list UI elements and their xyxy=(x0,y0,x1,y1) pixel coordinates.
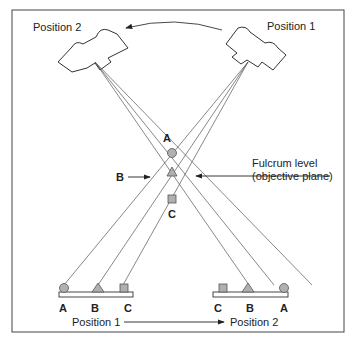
rays-position-1 xyxy=(64,62,248,285)
tube-label-position-2: Position 2 xyxy=(33,21,81,33)
bottom-caption-position-2: Position 2 xyxy=(230,316,278,328)
detector-right-label-c: C xyxy=(214,302,222,314)
rotation-arrow-icon xyxy=(126,22,222,30)
xray-tube-position-2 xyxy=(58,29,128,72)
fulcrum-label-line2: (objective plane) xyxy=(252,170,333,182)
tube-label-position-1: Position 1 xyxy=(267,20,315,32)
xray-tube-position-1 xyxy=(226,27,286,70)
point-a-circle xyxy=(168,149,177,158)
tomography-diagram: A C B Fulcrum level (objective plane) Po… xyxy=(0,0,360,342)
bottom-caption-position-1: Position 1 xyxy=(72,316,120,328)
detector-right-label-b: B xyxy=(246,302,254,314)
detector-left-label-a: A xyxy=(59,302,67,314)
detector-left-label-c: C xyxy=(124,302,132,314)
point-a-label: A xyxy=(163,132,171,144)
point-c-label: C xyxy=(168,208,176,220)
b-arrow-label: B xyxy=(116,171,124,183)
point-c-square xyxy=(168,195,176,203)
detector-left-label-b: B xyxy=(91,302,99,314)
detector-position-2 xyxy=(213,283,289,297)
detector-position-1 xyxy=(59,283,133,297)
detector-right-label-a: A xyxy=(280,302,288,314)
fulcrum-label-line1: Fulcrum level xyxy=(252,157,317,169)
